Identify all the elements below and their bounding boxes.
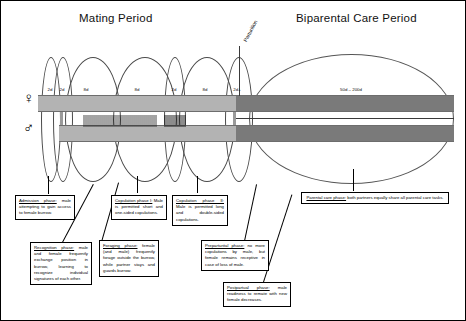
callout-postpartual: Postpartual phase: male readiness to rem… xyxy=(223,282,291,307)
callout-copulation-1-title: Copulation phase I: xyxy=(115,198,152,203)
burrow-band-female-biparental xyxy=(236,95,454,112)
period-title-biparental: Biparental Care Period xyxy=(296,12,417,24)
callout-foraging: Foraging phase: female (and male) freque… xyxy=(99,240,159,277)
period-title-mating: Mating Period xyxy=(79,12,153,24)
callout-admission: Admission phase: male attempting to gain… xyxy=(15,195,75,220)
callout-recognition-title: Recognition phase: xyxy=(34,245,74,250)
callout-preparturital: Preparturital phase: no more copulations… xyxy=(201,240,269,271)
callout-preparturital-title: Preparturital phase: xyxy=(205,243,244,248)
duration-label-recognition: 2d xyxy=(55,87,69,92)
callout-copulation-1: Copulation phase I: Male is permitted sh… xyxy=(111,195,167,220)
callout-recognition-body: male and female frequently exchange posi… xyxy=(34,245,88,281)
male-symbol: ♂ xyxy=(23,120,34,135)
leader-line-copulation-1 xyxy=(137,176,138,193)
burrow-band-male-biparental xyxy=(236,125,454,142)
callout-parental-care: Parental care phase: both partners equal… xyxy=(301,192,449,204)
callout-foraging-title: Foraging phase: xyxy=(103,243,137,248)
leader-line-copulation-2 xyxy=(197,176,198,193)
duration-label-foraging-2: 8d xyxy=(197,87,213,92)
callout-parental-care-body: both partners equally share all parental… xyxy=(346,195,443,200)
biparental-midline xyxy=(236,118,454,119)
duration-label-copulation-1: 8d xyxy=(129,87,145,92)
callout-parental-care-title: Parental care phase: xyxy=(306,195,346,200)
leader-line-parental-care xyxy=(353,169,354,191)
callout-recognition: Recognition phase: male and female frequ… xyxy=(30,242,92,285)
figure-canvas: Mating Period Biparental Care Period Par… xyxy=(0,0,466,321)
burrow-band-female-mating xyxy=(38,95,236,112)
burrow-band-male-mating xyxy=(59,125,236,142)
female-symbol: ♀ xyxy=(23,90,34,105)
band-connector-left xyxy=(60,112,63,125)
duration-label-foraging-1: 8d xyxy=(78,87,94,92)
callout-copulation-2-title: Copulation phase II: xyxy=(176,198,224,203)
callout-admission-title: Admission phase: xyxy=(19,198,57,203)
callout-copulation-2: Copulation phase II: Male is permitted l… xyxy=(172,195,228,226)
callout-copulation-2-body: Male is permitted long and double-sided … xyxy=(176,204,224,221)
copulation-hatch-phase-2 xyxy=(164,113,186,125)
duration-label-preparturital: 2d+ xyxy=(228,87,246,92)
leader-line-admission xyxy=(48,176,49,194)
parturition-label: Parturition xyxy=(242,19,258,43)
duration-label-copulation-2: 2d xyxy=(167,87,181,92)
callout-postpartual-title: Postpartual phase: xyxy=(227,285,270,290)
leader-line-preparturital xyxy=(244,184,257,241)
phase-ellipse-parental-care xyxy=(249,54,454,184)
copulation-hatch-phase-1 xyxy=(83,113,158,125)
duration-label-parental-care: 50d – 200d xyxy=(321,87,381,92)
